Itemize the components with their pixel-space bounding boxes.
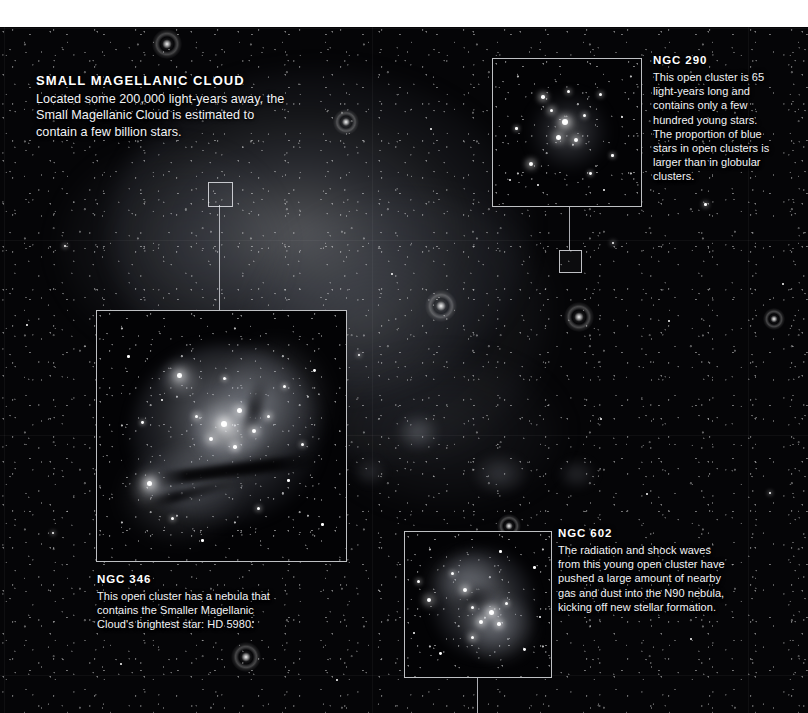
cluster-star <box>621 116 623 118</box>
inset-star-grain <box>493 59 641 206</box>
cluster-star <box>313 369 316 372</box>
cluster-star <box>583 114 586 117</box>
star <box>336 679 338 681</box>
star <box>64 245 66 247</box>
inset-star-grain-bright <box>493 59 641 206</box>
star <box>430 128 432 130</box>
cluster-star <box>439 652 442 655</box>
cluster-star <box>127 355 130 358</box>
cluster-star <box>413 632 415 634</box>
star <box>782 283 784 285</box>
cluster-star <box>237 408 242 413</box>
scan-seam <box>0 240 808 241</box>
nebula-wing <box>205 323 347 475</box>
callout-ngc346-body: This open cluster has a nebula that cont… <box>97 589 287 632</box>
star <box>769 492 771 494</box>
scan-seam <box>0 28 808 29</box>
cluster-star <box>611 154 614 157</box>
leader-line-ngc346 <box>219 205 220 310</box>
cluster-star <box>171 517 174 520</box>
cluster-star <box>541 95 545 99</box>
callout-ngc602-body: The radiation and shock waves from this … <box>558 543 730 614</box>
callout-ngc290-title: NGC 290 <box>653 54 775 67</box>
callout-smc-body: Located some 200,000 light-years away, t… <box>36 91 286 140</box>
dust-lane <box>238 374 271 445</box>
cluster-star <box>509 179 511 181</box>
leader-line-ngc290 <box>569 205 570 250</box>
cluster-star <box>195 415 198 418</box>
cluster-star <box>497 622 501 626</box>
cluster-star <box>515 127 518 130</box>
cluster-star <box>539 616 541 618</box>
cluster-star <box>574 138 578 142</box>
halo-star <box>231 642 261 672</box>
callout-ngc290: NGC 290 This open cluster is 65 light-ye… <box>653 54 775 184</box>
cluster-star <box>533 566 536 569</box>
cluster-star <box>603 189 605 191</box>
cluster-star <box>523 648 526 651</box>
nebula-knot <box>352 457 388 487</box>
cluster-star <box>451 572 454 575</box>
locator-square-ngc290 <box>559 250 582 273</box>
cluster-star <box>499 550 502 553</box>
star <box>391 273 393 275</box>
inset-ngc290 <box>492 58 642 207</box>
halo-star <box>152 29 182 59</box>
callout-ngc346-title: NGC 346 <box>97 573 287 586</box>
inset-star-grain-bright <box>97 311 346 561</box>
nebula-knot <box>159 359 201 397</box>
cluster-star <box>223 377 226 380</box>
star <box>690 638 692 640</box>
cluster-star <box>471 636 474 639</box>
nebula-knot <box>395 412 441 452</box>
cluster-star <box>562 119 568 125</box>
halo-star <box>425 290 457 322</box>
cluster-star <box>599 93 602 96</box>
cluster-star <box>257 507 260 510</box>
cluster-star <box>287 479 290 482</box>
cluster-star <box>489 610 494 615</box>
cluster-star <box>589 172 592 175</box>
inset-ngc602 <box>404 531 552 678</box>
star <box>26 324 28 326</box>
cluster-star <box>529 162 533 166</box>
callout-ngc602: NGC 602 The radiation and shock waves fr… <box>558 527 730 614</box>
callout-ngc290-body: This open cluster is 65 light-years long… <box>653 70 775 184</box>
cluster-star <box>550 109 553 112</box>
star <box>612 242 614 244</box>
leader-line-ngc602 <box>477 676 478 713</box>
cluster-star <box>267 415 270 418</box>
cluster-star <box>233 445 237 449</box>
star <box>52 532 54 534</box>
callout-ngc346: NGC 346 This open cluster has a nebula t… <box>97 573 287 632</box>
smc-astrophoto-plate: SMALL MAGELLANIC CLOUD Located some 200,… <box>0 27 808 713</box>
cluster-star <box>283 385 286 388</box>
cluster-star <box>556 135 561 140</box>
inset-star-grain <box>97 311 346 561</box>
star <box>668 320 670 322</box>
cluster-glow <box>529 93 609 171</box>
smc-tail-glow <box>330 357 560 507</box>
cluster-star <box>537 184 539 186</box>
callout-ngc602-title: NGC 602 <box>558 527 730 540</box>
cluster-star <box>567 90 570 93</box>
star <box>646 493 648 495</box>
callout-smc: SMALL MAGELLANIC CLOUD Located some 200,… <box>36 74 286 140</box>
cluster-star <box>161 399 163 401</box>
halo-star <box>564 302 594 332</box>
cluster-star <box>221 421 227 427</box>
scan-seam <box>372 27 373 713</box>
cluster-star <box>141 421 144 424</box>
cluster-star <box>177 373 182 378</box>
figure-root: SMALL MAGELLANIC CLOUD Located some 200,… <box>0 0 808 713</box>
cluster-star <box>209 437 213 441</box>
halo-star <box>763 308 785 330</box>
dust-cavity <box>449 578 502 621</box>
star <box>120 663 122 665</box>
cluster-star <box>427 598 431 602</box>
cluster-star <box>147 481 152 486</box>
nebula-knot <box>556 457 598 491</box>
halo-star <box>333 109 359 135</box>
scan-seam <box>4 27 5 713</box>
star <box>600 418 602 420</box>
